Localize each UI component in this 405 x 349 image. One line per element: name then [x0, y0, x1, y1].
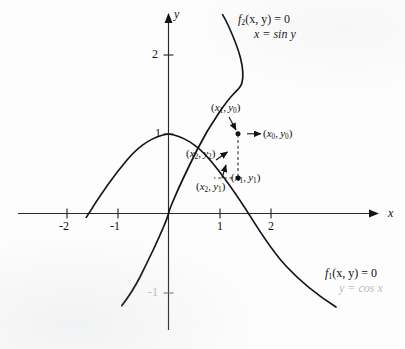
- leader-x2-y2: [216, 152, 228, 160]
- point-label-x2-y2: (x2, y2): [186, 148, 215, 161]
- x-tick-label--2: -2: [59, 220, 69, 232]
- f2-equation-line1: f2(x, y) = 0: [238, 13, 290, 27]
- point-label-x1-y1: (x1, y1): [231, 172, 260, 185]
- y-tick-label--1: -1: [148, 286, 158, 298]
- x-tick-label--1: -1: [110, 220, 120, 232]
- point-label-x2-y1: (x2, y1): [196, 181, 225, 194]
- f2-equation-line2: x = sin y: [254, 28, 296, 40]
- f1-equation-line2: y = cos x: [339, 282, 383, 294]
- point-label-x1-y0: (x1, y0): [211, 102, 240, 115]
- x-tick-label-2: 2: [268, 220, 274, 232]
- y-tick-label-1: 1: [155, 127, 161, 139]
- f1-equation-line1: f1(x, y) = 0: [325, 267, 377, 281]
- f1-equation-rest: (x, y) = 0: [332, 266, 377, 280]
- f2-curve: [122, 15, 243, 306]
- leader-x1-y0: [229, 117, 236, 130]
- x-axis-label: x: [388, 207, 393, 219]
- leader-x2-y1: [222, 165, 226, 178]
- f2-equation-rest: (x, y) = 0: [245, 12, 290, 26]
- x-tick-label-1: 1: [217, 220, 223, 232]
- y-axis-label: y: [174, 8, 179, 20]
- y-tick-label-2: 2: [152, 48, 158, 60]
- marker-x0-y0: [236, 131, 241, 136]
- newton-method-figure: x y -2 -1 1 2 2 1 -1 f2(x, y) = 0 x = si…: [0, 0, 405, 349]
- point-label-x0-y0: (x0, y0): [263, 128, 292, 141]
- figure-canvas: [0, 0, 405, 349]
